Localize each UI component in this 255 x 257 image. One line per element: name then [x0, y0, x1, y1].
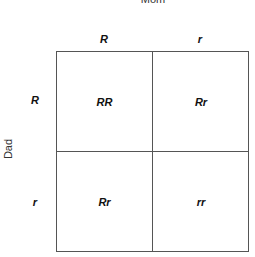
row-header-2: r	[25, 196, 45, 208]
cell-rr: rr	[153, 152, 249, 252]
column-header-2: r	[152, 33, 248, 45]
column-header-1: R	[56, 33, 152, 45]
row-header-1: R	[25, 94, 45, 106]
mom-label: Mom	[113, 0, 193, 5]
cell-Rr-bottom: Rr	[57, 152, 153, 252]
dad-label: Dad	[2, 129, 14, 169]
punnett-grid: RR Rr Rr rr	[56, 51, 249, 252]
cell-RR: RR	[57, 52, 153, 152]
cell-Rr-top: Rr	[153, 52, 249, 152]
